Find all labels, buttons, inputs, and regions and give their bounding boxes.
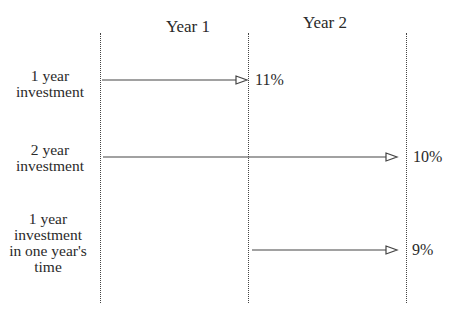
rate-forward: 9% [412, 241, 433, 259]
arrows [0, 0, 461, 318]
arrow-2-year-head-icon [386, 153, 397, 161]
rate-1-year: 11% [255, 71, 284, 89]
arrow-forward-head-icon [386, 246, 397, 254]
arrow-1-year-head-icon [236, 76, 247, 84]
rate-2-year: 10% [413, 148, 442, 166]
